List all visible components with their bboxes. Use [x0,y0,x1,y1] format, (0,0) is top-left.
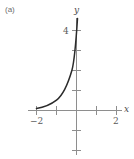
x-tick-label-pos2: 2 [113,116,119,126]
exponential-plot: −2 2 4 x y [0,0,134,159]
exponential-curve [37,19,78,109]
x-axis-label: x [124,104,129,114]
figure-panel: (a) −2 2 4 x y [0,0,134,159]
y-tick-label-4: 4 [63,26,69,36]
x-tick-label-neg2: −2 [30,116,43,126]
y-axis-label: y [73,5,80,15]
